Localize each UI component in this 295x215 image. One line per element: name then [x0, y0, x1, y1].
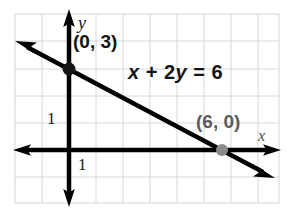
- equation-plus: +: [146, 61, 158, 83]
- x-intercept-point-label: (6, 0): [196, 112, 240, 131]
- equation-label: x + 2y = 6: [128, 62, 223, 82]
- y-intercept-point-label: (0, 3): [73, 32, 117, 51]
- point-x-intercept: [216, 144, 228, 156]
- equation-constant: 6: [212, 61, 224, 83]
- x-unit-label: 1: [78, 156, 87, 173]
- graph-canvas: [0, 0, 295, 215]
- equation-equals: =: [193, 61, 205, 83]
- y-unit-label: 1: [47, 110, 56, 127]
- equation-coefficient: 2: [164, 61, 176, 83]
- x-axis-label: x: [258, 128, 265, 144]
- coordinate-graph-figure: y x (0, 3) (6, 0) x + 2y = 6 1 1: [0, 0, 295, 215]
- equation-term-x: x: [128, 61, 140, 83]
- point-y-intercept: [63, 63, 76, 76]
- equation-term-y: y: [176, 61, 188, 83]
- y-axis-label: y: [78, 14, 86, 32]
